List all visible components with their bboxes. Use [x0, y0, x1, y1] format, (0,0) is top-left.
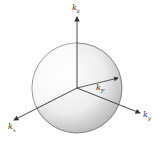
kf-label: kF — [96, 84, 105, 94]
kz-label: kz — [72, 4, 80, 14]
fermi-sphere-diagram — [0, 0, 159, 142]
ky-label: ky — [143, 111, 151, 121]
kx-label: kx — [8, 123, 16, 133]
